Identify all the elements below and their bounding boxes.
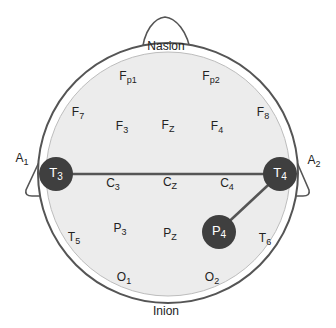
electrode-f8: F8 [257,106,269,121]
electrode-p4: P4 [212,224,226,240]
electrode-t6: T6 [259,232,271,247]
electrode-f3: F3 [116,120,128,135]
nasion-label: Nasion [147,40,184,52]
electrode-o1: O1 [117,271,131,286]
electrode-fz: FZ [162,119,175,134]
electrode-c4: C4 [220,177,234,192]
electrode-fp1: Fp1 [119,70,136,85]
electrode-t4: T4 [273,166,287,182]
electrode-f4: F4 [211,120,223,135]
a1-label: A1 [15,152,28,167]
a2-label: A2 [307,154,320,169]
electrode-pz: PZ [163,227,177,242]
electrode-t5: T5 [68,231,80,246]
electrode-cz: CZ [163,176,177,191]
electrode-o2: O2 [205,271,219,286]
electrode-fp2: Fp2 [202,70,219,85]
electrode-t3: T3 [49,166,63,182]
electrode-f7: F7 [72,106,84,121]
electrode-p3: P3 [113,222,126,237]
electrode-c3: C3 [106,177,120,192]
inion-label: Inion [153,305,179,317]
